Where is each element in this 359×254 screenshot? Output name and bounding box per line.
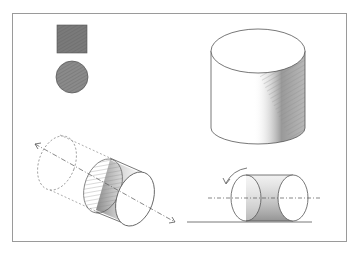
shaded-circle: [56, 61, 88, 93]
upright-cylinder: [211, 29, 305, 144]
rolling-cylinder: [187, 168, 322, 222]
tilted-cylinder: [31, 131, 175, 232]
arrow-right-icon: [169, 217, 175, 223]
illustration-canvas: [0, 0, 359, 254]
shaded-square: [57, 25, 87, 53]
ghost-outline: [31, 131, 84, 196]
